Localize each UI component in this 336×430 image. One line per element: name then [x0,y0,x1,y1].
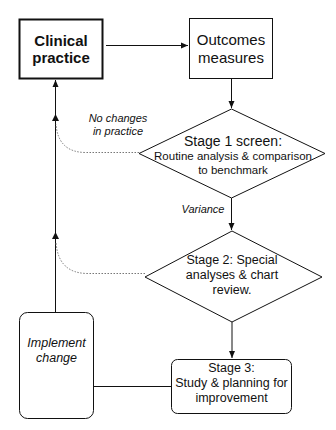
stage1-title: Stage 1 screen: [150,133,316,149]
no-changes-line1: No changes [84,112,152,125]
stage3-line3: improvement [171,391,292,406]
stage2-line2: analyses & chart [172,268,292,283]
outcomes-measures-label: Outcomes measures [189,18,273,79]
stage2-label: Stage 2: Special analyses & chart review… [172,253,292,298]
stage1-label: Stage 1 screen: Routine analysis & compa… [150,133,316,178]
outcomes-line1: Outcomes [189,31,273,48]
implement-line1: Implement [19,336,94,350]
stage2-line1: Stage 2: Special [172,253,292,268]
stage3-line1: Stage 3: [171,361,292,376]
implement-change-label: Implement change [19,312,94,419]
stage2-line3: review. [172,283,292,298]
no-changes-line2: in practice [84,125,152,138]
clinical-practice-label: Clinical practice [19,19,103,79]
stage1-line2: to benchmark [150,163,316,177]
feedback-arrowhead-low [52,232,59,239]
outcomes-line2: measures [189,49,273,66]
clinical-practice-line2: practice [19,49,103,66]
implement-line2: change [19,351,94,365]
no-changes-label: No changes in practice [84,112,152,138]
feedback-arrowhead-mid [52,114,59,121]
stage3-line2: Study & planning for [171,376,292,391]
variance-label: Variance [180,203,226,216]
stage3-label: Stage 3: Study & planning for improvemen… [171,361,292,405]
stage1-line1: Routine analysis & comparison [150,149,316,163]
clinical-practice-line1: Clinical [19,32,103,49]
dotted-no-change-curve-2 [56,242,145,274]
